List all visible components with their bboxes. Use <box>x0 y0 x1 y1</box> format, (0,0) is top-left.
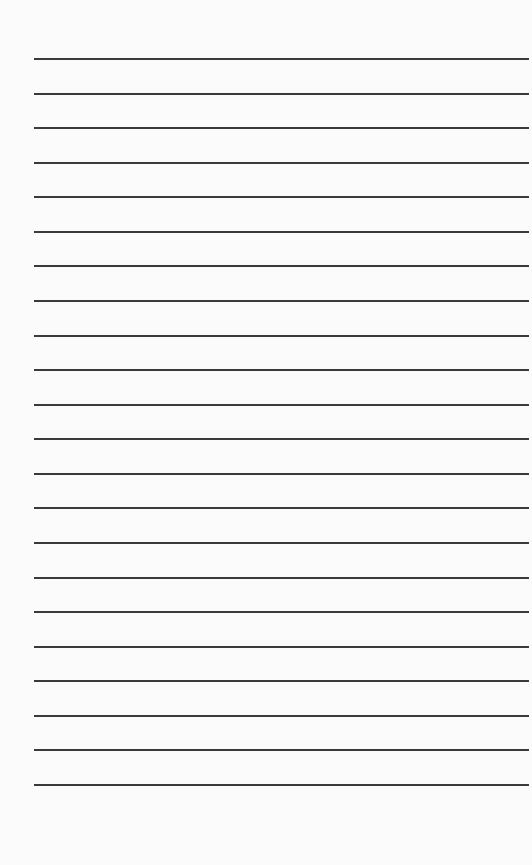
ruled-line <box>34 438 529 440</box>
ruled-line <box>34 507 529 509</box>
ruled-line <box>34 58 529 60</box>
ruled-line <box>34 369 529 371</box>
ruled-line <box>34 265 529 267</box>
ruled-line <box>34 93 529 95</box>
ruled-line <box>34 127 529 129</box>
ruled-line <box>34 196 529 198</box>
ruled-line <box>34 715 529 717</box>
ruled-line <box>34 611 529 613</box>
ruled-line <box>34 542 529 544</box>
ruled-line <box>34 680 529 682</box>
ruled-line <box>34 784 529 786</box>
lined-paper-page <box>0 0 532 865</box>
ruled-line <box>34 473 529 475</box>
ruled-line <box>34 749 529 751</box>
ruled-line <box>34 162 529 164</box>
ruled-line <box>34 577 529 579</box>
ruled-line <box>34 646 529 648</box>
ruled-line <box>34 300 529 302</box>
ruled-line <box>34 231 529 233</box>
ruled-line <box>34 404 529 406</box>
ruled-line <box>34 335 529 337</box>
